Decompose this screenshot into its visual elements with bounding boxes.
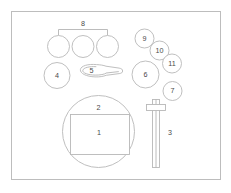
bracket-path bbox=[59, 30, 108, 36]
part-1-panel: 1 bbox=[71, 115, 130, 155]
label-8: 8 bbox=[81, 19, 85, 28]
diagram-canvas: 8 4 5 9 10 bbox=[0, 0, 231, 193]
disc-6 bbox=[132, 61, 159, 88]
label-3: 3 bbox=[168, 128, 172, 137]
disc-4 bbox=[44, 63, 70, 89]
part-6-disc: 6 bbox=[132, 61, 159, 88]
top-circle-right bbox=[97, 36, 119, 58]
part-4-disc: 4 bbox=[44, 63, 70, 89]
rect-1 bbox=[71, 115, 130, 155]
disc-11 bbox=[163, 54, 182, 73]
part-8-bracket: 8 bbox=[59, 19, 108, 35]
rod-collar bbox=[147, 105, 166, 111]
part-11-disc: 11 bbox=[163, 54, 182, 73]
part-5-spoon: 5 bbox=[80, 64, 122, 77]
top-circle-left bbox=[48, 36, 70, 58]
figure-diagram: 8 4 5 9 10 bbox=[0, 0, 231, 193]
disc-7 bbox=[163, 82, 182, 101]
part-7-disc: 7 bbox=[163, 82, 182, 101]
part-3-rod: 3 bbox=[147, 100, 173, 168]
top-circle-center bbox=[72, 36, 94, 58]
